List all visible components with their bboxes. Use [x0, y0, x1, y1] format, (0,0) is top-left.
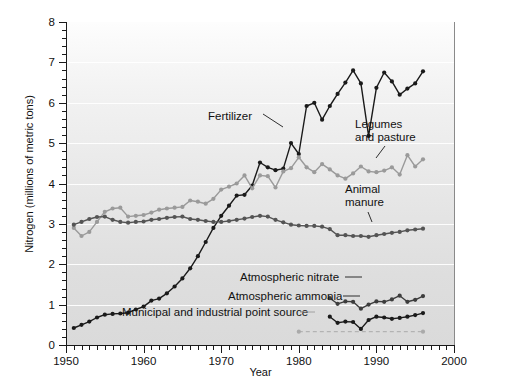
y-tick-minor: [62, 127, 66, 128]
x-tick-minor: [338, 346, 339, 350]
x-tick-minor: [128, 346, 129, 350]
municipal-label: Municipal and industrial point source: [122, 306, 308, 319]
x-tick-minor: [345, 346, 346, 350]
x-tick-minor: [105, 346, 106, 350]
x-tick-minor: [97, 346, 98, 350]
y-tick-minor: [62, 256, 66, 257]
y-tick-label-3: 3: [33, 218, 55, 230]
x-tick-minor: [260, 346, 261, 350]
y-tick-2: [59, 264, 66, 265]
y-tick-minor: [62, 329, 66, 330]
x-tick-minor: [159, 346, 160, 350]
y-tick-minor: [62, 151, 66, 152]
x-tick-minor: [89, 346, 90, 350]
y-tick-label-4: 4: [33, 178, 55, 190]
y-tick-minor: [62, 54, 66, 55]
y-tick-label-2: 2: [33, 258, 55, 270]
y-tick-minor: [62, 297, 66, 298]
gridline-2: [66, 264, 454, 265]
x-tick-minor: [439, 346, 440, 350]
atmospheric-nitrate-label: Atmospheric nitrate: [240, 271, 339, 284]
y-tick-minor: [62, 192, 66, 193]
y-tick-8: [59, 22, 66, 23]
y-tick-minor: [62, 111, 66, 112]
x-tick-minor: [353, 346, 354, 350]
y-tick-label-0: 0: [33, 339, 55, 351]
y-tick-minor: [62, 313, 66, 314]
gridline-3: [66, 224, 454, 225]
x-tick-minor: [136, 346, 137, 350]
x-tick-minor: [237, 346, 238, 350]
legumes-label-line2: and pasture: [355, 131, 416, 144]
y-tick-minor: [62, 70, 66, 71]
x-tick-minor: [369, 346, 370, 350]
x-tick-1950: [66, 346, 67, 353]
x-tick-minor: [431, 346, 432, 350]
atmospheric-ammonia-label: Atmospheric ammonia: [228, 290, 342, 303]
y-tick-label-8: 8: [33, 16, 55, 28]
y-tick-minor: [62, 337, 66, 338]
x-tick-minor: [213, 346, 214, 350]
x-tick-minor: [74, 346, 75, 350]
y-tick-7: [59, 62, 66, 63]
y-tick-minor: [62, 38, 66, 39]
x-tick-minor: [113, 346, 114, 350]
x-tick-2000: [454, 346, 455, 353]
y-tick-minor: [62, 30, 66, 31]
y-tick-5: [59, 143, 66, 144]
fertilizer-label: Fertilizer: [208, 110, 252, 123]
y-tick-1: [59, 305, 66, 306]
y-tick-minor: [62, 167, 66, 168]
legumes-label-line1: Legumes: [355, 118, 416, 131]
y-tick-label-6: 6: [33, 97, 55, 109]
x-tick-minor: [322, 346, 323, 350]
y-tick-minor: [62, 248, 66, 249]
animal-manure-label: Animal manure: [345, 183, 384, 209]
x-tick-minor: [392, 346, 393, 350]
y-tick-minor: [62, 280, 66, 281]
y-tick-minor: [62, 216, 66, 217]
y-tick-minor: [62, 208, 66, 209]
gridline-6: [66, 103, 454, 104]
y-tick-minor: [62, 79, 66, 80]
x-tick-minor: [276, 346, 277, 350]
y-tick-minor: [62, 200, 66, 201]
gridline-7: [66, 62, 454, 63]
x-tick-minor: [415, 346, 416, 350]
y-tick-label-1: 1: [33, 299, 55, 311]
legumes-label: Legumes and pasture: [355, 118, 416, 144]
x-tick-minor: [175, 346, 176, 350]
y-axis-line: [66, 22, 67, 346]
x-tick-1960: [144, 346, 145, 353]
x-tick-minor: [291, 346, 292, 350]
x-tick-minor: [167, 346, 168, 350]
x-tick-minor: [229, 346, 230, 350]
y-tick-minor: [62, 289, 66, 290]
x-tick-minor: [120, 346, 121, 350]
x-tick-1980: [299, 346, 300, 353]
y-tick-minor: [62, 159, 66, 160]
x-tick-minor: [423, 346, 424, 350]
y-tick-minor: [62, 272, 66, 273]
x-tick-minor: [252, 346, 253, 350]
x-tick-minor: [151, 346, 152, 350]
x-tick-minor: [283, 346, 284, 350]
nitrogen-sources-line-chart: 012345678 195019601970198019902000 Nitro…: [0, 0, 519, 379]
gridline-4: [66, 184, 454, 185]
animal-manure-label-line2: manure: [345, 196, 384, 209]
y-tick-minor: [62, 46, 66, 47]
y-tick-minor: [62, 175, 66, 176]
x-tick-minor: [307, 346, 308, 350]
y-tick-6: [59, 103, 66, 104]
y-tick-0: [59, 345, 66, 346]
x-tick-1990: [376, 346, 377, 353]
x-tick-1970: [221, 346, 222, 353]
x-tick-minor: [407, 346, 408, 350]
x-tick-minor: [190, 346, 191, 350]
y-tick-4: [59, 184, 66, 185]
x-tick-minor: [182, 346, 183, 350]
y-tick-minor: [62, 240, 66, 241]
x-tick-minor: [361, 346, 362, 350]
x-tick-minor: [384, 346, 385, 350]
y-tick-minor: [62, 321, 66, 322]
